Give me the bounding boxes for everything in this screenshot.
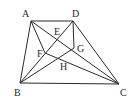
point-label-H: H <box>60 61 67 72</box>
point-label-C: C <box>120 87 127 98</box>
point-label-A: A <box>22 8 30 19</box>
segment-BC <box>20 83 119 84</box>
point-label-D: D <box>72 8 79 19</box>
point-label-E: E <box>54 26 60 37</box>
segment-DG <box>73 21 74 48</box>
segment-AC <box>31 21 119 84</box>
point-label-F: F <box>37 48 43 59</box>
point-label-G: G <box>77 43 84 54</box>
point-label-B: B <box>14 87 21 98</box>
segment-AB <box>20 21 31 83</box>
segment-BD <box>20 21 73 83</box>
segments-group <box>20 21 119 84</box>
geometry-figure: ADBCEFGH <box>0 0 137 102</box>
